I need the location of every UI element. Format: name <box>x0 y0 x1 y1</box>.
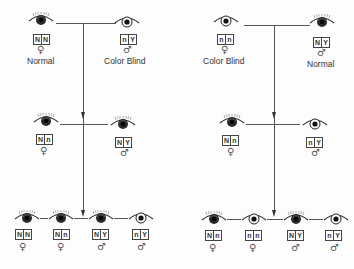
allele: n <box>218 35 225 44</box>
allele: N <box>206 231 213 240</box>
genotype-box: Nn <box>222 135 239 146</box>
allele: N <box>23 230 31 239</box>
male-symbol-icon: ♂ <box>311 148 320 158</box>
eye-colorblind-icon <box>128 210 154 224</box>
genotype-box: Nn <box>36 134 53 145</box>
eye-normal-icon <box>110 116 136 130</box>
allele: N <box>288 231 295 240</box>
allele: N <box>223 136 230 145</box>
allele: Y <box>100 230 108 239</box>
allele: n <box>230 136 238 145</box>
eye-normal-icon <box>48 210 74 224</box>
genotype-box: Nn <box>205 230 222 241</box>
female-symbol-icon: ♀ <box>19 242 26 252</box>
eye-normal-icon <box>219 114 245 128</box>
female-symbol-icon: ♀ <box>40 146 47 156</box>
eye-colorblind-icon <box>213 13 239 27</box>
allele: N <box>41 35 49 44</box>
female-symbol-icon: ♀ <box>209 243 216 253</box>
allele: n <box>213 231 221 240</box>
eye-colorblind-icon <box>114 14 140 28</box>
parents-connector-line <box>56 23 116 24</box>
allele: N <box>37 135 44 144</box>
eye-normal-icon <box>201 211 227 225</box>
arrow-down-icon <box>272 112 276 119</box>
phenotype-label: Normal <box>27 56 54 66</box>
allele: Y <box>314 138 322 147</box>
female-symbol-icon: ♀ <box>57 242 64 252</box>
genotype-box: nY <box>132 229 149 240</box>
male-symbol-icon: ♂ <box>123 45 132 55</box>
female-symbol-icon: ♀ <box>37 45 44 55</box>
allele: Y <box>321 38 329 47</box>
eye-normal-icon <box>283 211 309 225</box>
genotype-box: Nn <box>53 229 70 240</box>
genotype-box: nY <box>325 230 342 241</box>
eye-normal-icon <box>14 210 40 224</box>
gen2-connector-line <box>246 124 300 125</box>
arrow-down-icon <box>272 210 276 217</box>
allele: n <box>133 230 140 239</box>
male-symbol-icon: ♂ <box>137 242 146 252</box>
male-symbol-icon: ♂ <box>317 48 326 58</box>
allele: n <box>253 231 261 240</box>
eye-normal-icon <box>309 14 335 28</box>
allele: n <box>61 230 69 239</box>
male-symbol-icon: ♂ <box>120 148 129 158</box>
eye-colorblind-icon <box>241 211 267 225</box>
male-symbol-icon: ♂ <box>330 243 339 253</box>
allele: N <box>116 138 123 147</box>
allele: N <box>54 230 61 239</box>
phenotype-label: Normal <box>307 59 334 69</box>
female-symbol-icon: ♀ <box>227 147 234 157</box>
allele: n <box>121 35 128 44</box>
allele: n <box>307 138 314 147</box>
female-symbol-icon: ♀ <box>249 243 256 253</box>
allele: Y <box>128 35 136 44</box>
genotype-box: nn <box>245 230 262 241</box>
allele: N <box>34 35 41 44</box>
gen2-connector-line <box>60 124 108 125</box>
allele: n <box>44 135 52 144</box>
male-symbol-icon: ♂ <box>291 243 300 253</box>
genotype-box: NN <box>15 229 32 240</box>
phenotype-label: Color Blind <box>203 56 245 66</box>
eye-colorblind-icon <box>302 116 328 130</box>
gen3-connector-line <box>215 219 333 220</box>
eye-normal-icon <box>88 210 114 224</box>
arrow-down-icon <box>81 112 85 119</box>
male-symbol-icon: ♂ <box>97 242 106 252</box>
allele: N <box>93 230 100 239</box>
eye-normal-icon <box>33 113 59 127</box>
phenotype-label: Color Blind <box>104 56 146 66</box>
gen3-connector-line <box>30 218 138 219</box>
allele: Y <box>333 231 341 240</box>
allele: n <box>225 35 233 44</box>
eye-normal-icon <box>28 12 54 26</box>
female-symbol-icon: ♀ <box>221 45 228 55</box>
genotype-box: NY <box>92 229 109 240</box>
genotype-box: NY <box>287 230 304 241</box>
eye-colorblind-icon <box>323 211 349 225</box>
allele: n <box>246 231 253 240</box>
allele: n <box>326 231 333 240</box>
allele: N <box>16 230 23 239</box>
allele: Y <box>123 138 131 147</box>
allele: Y <box>140 230 148 239</box>
arrow-down-icon <box>81 210 85 217</box>
allele: Y <box>295 231 303 240</box>
parents-connector-line <box>244 25 310 26</box>
allele: N <box>314 38 321 47</box>
